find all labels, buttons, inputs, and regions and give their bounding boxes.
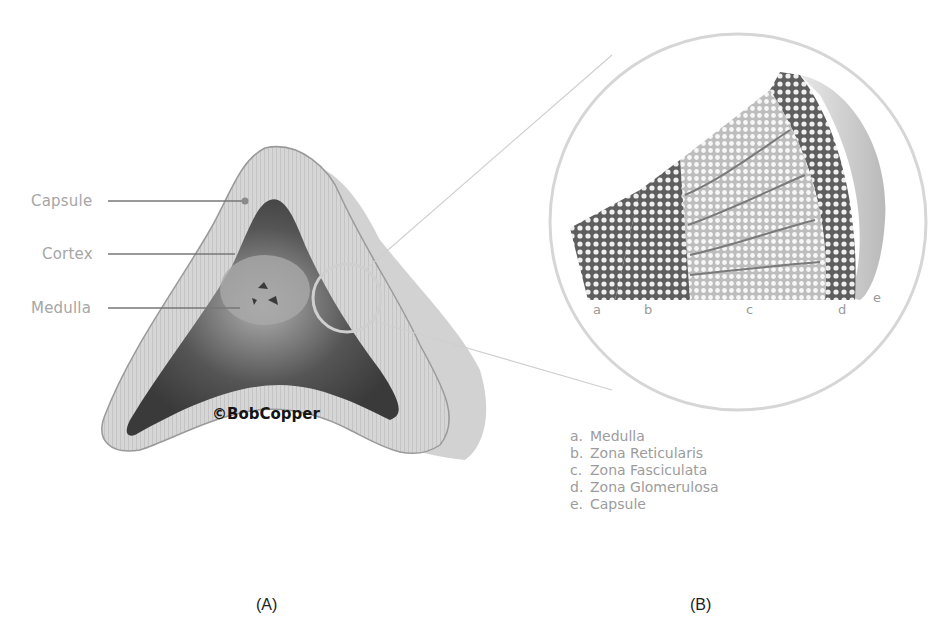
zone-marker-b: b	[644, 302, 652, 317]
medulla-region	[220, 255, 310, 325]
legend-item: c.Zona Fasciculata	[570, 462, 719, 479]
legend-item: a.Medulla	[570, 428, 719, 445]
adrenal-gland-diagram	[0, 0, 946, 635]
zone-legend: a.Medulla b.Zona Reticularis c.Zona Fasc…	[570, 428, 719, 513]
capsule-pointer-dot	[242, 198, 249, 205]
zone-marker-d: d	[838, 302, 846, 317]
zone-marker-e: e	[873, 290, 881, 305]
label-cortex: Cortex	[42, 245, 93, 263]
legend-item: b.Zona Reticularis	[570, 445, 719, 462]
watermark: ©BobCopper	[212, 405, 320, 423]
zone-marker-a: a	[593, 302, 601, 317]
panel-caption-b: (B)	[690, 596, 711, 614]
legend-item: d.Zona Glomerulosa	[570, 479, 719, 496]
panel-caption-a: (A)	[256, 596, 277, 614]
legend-item: e.Capsule	[570, 496, 719, 513]
label-medulla: Medulla	[31, 299, 91, 317]
zone-marker-c: c	[746, 302, 753, 317]
label-capsule: Capsule	[31, 192, 92, 210]
